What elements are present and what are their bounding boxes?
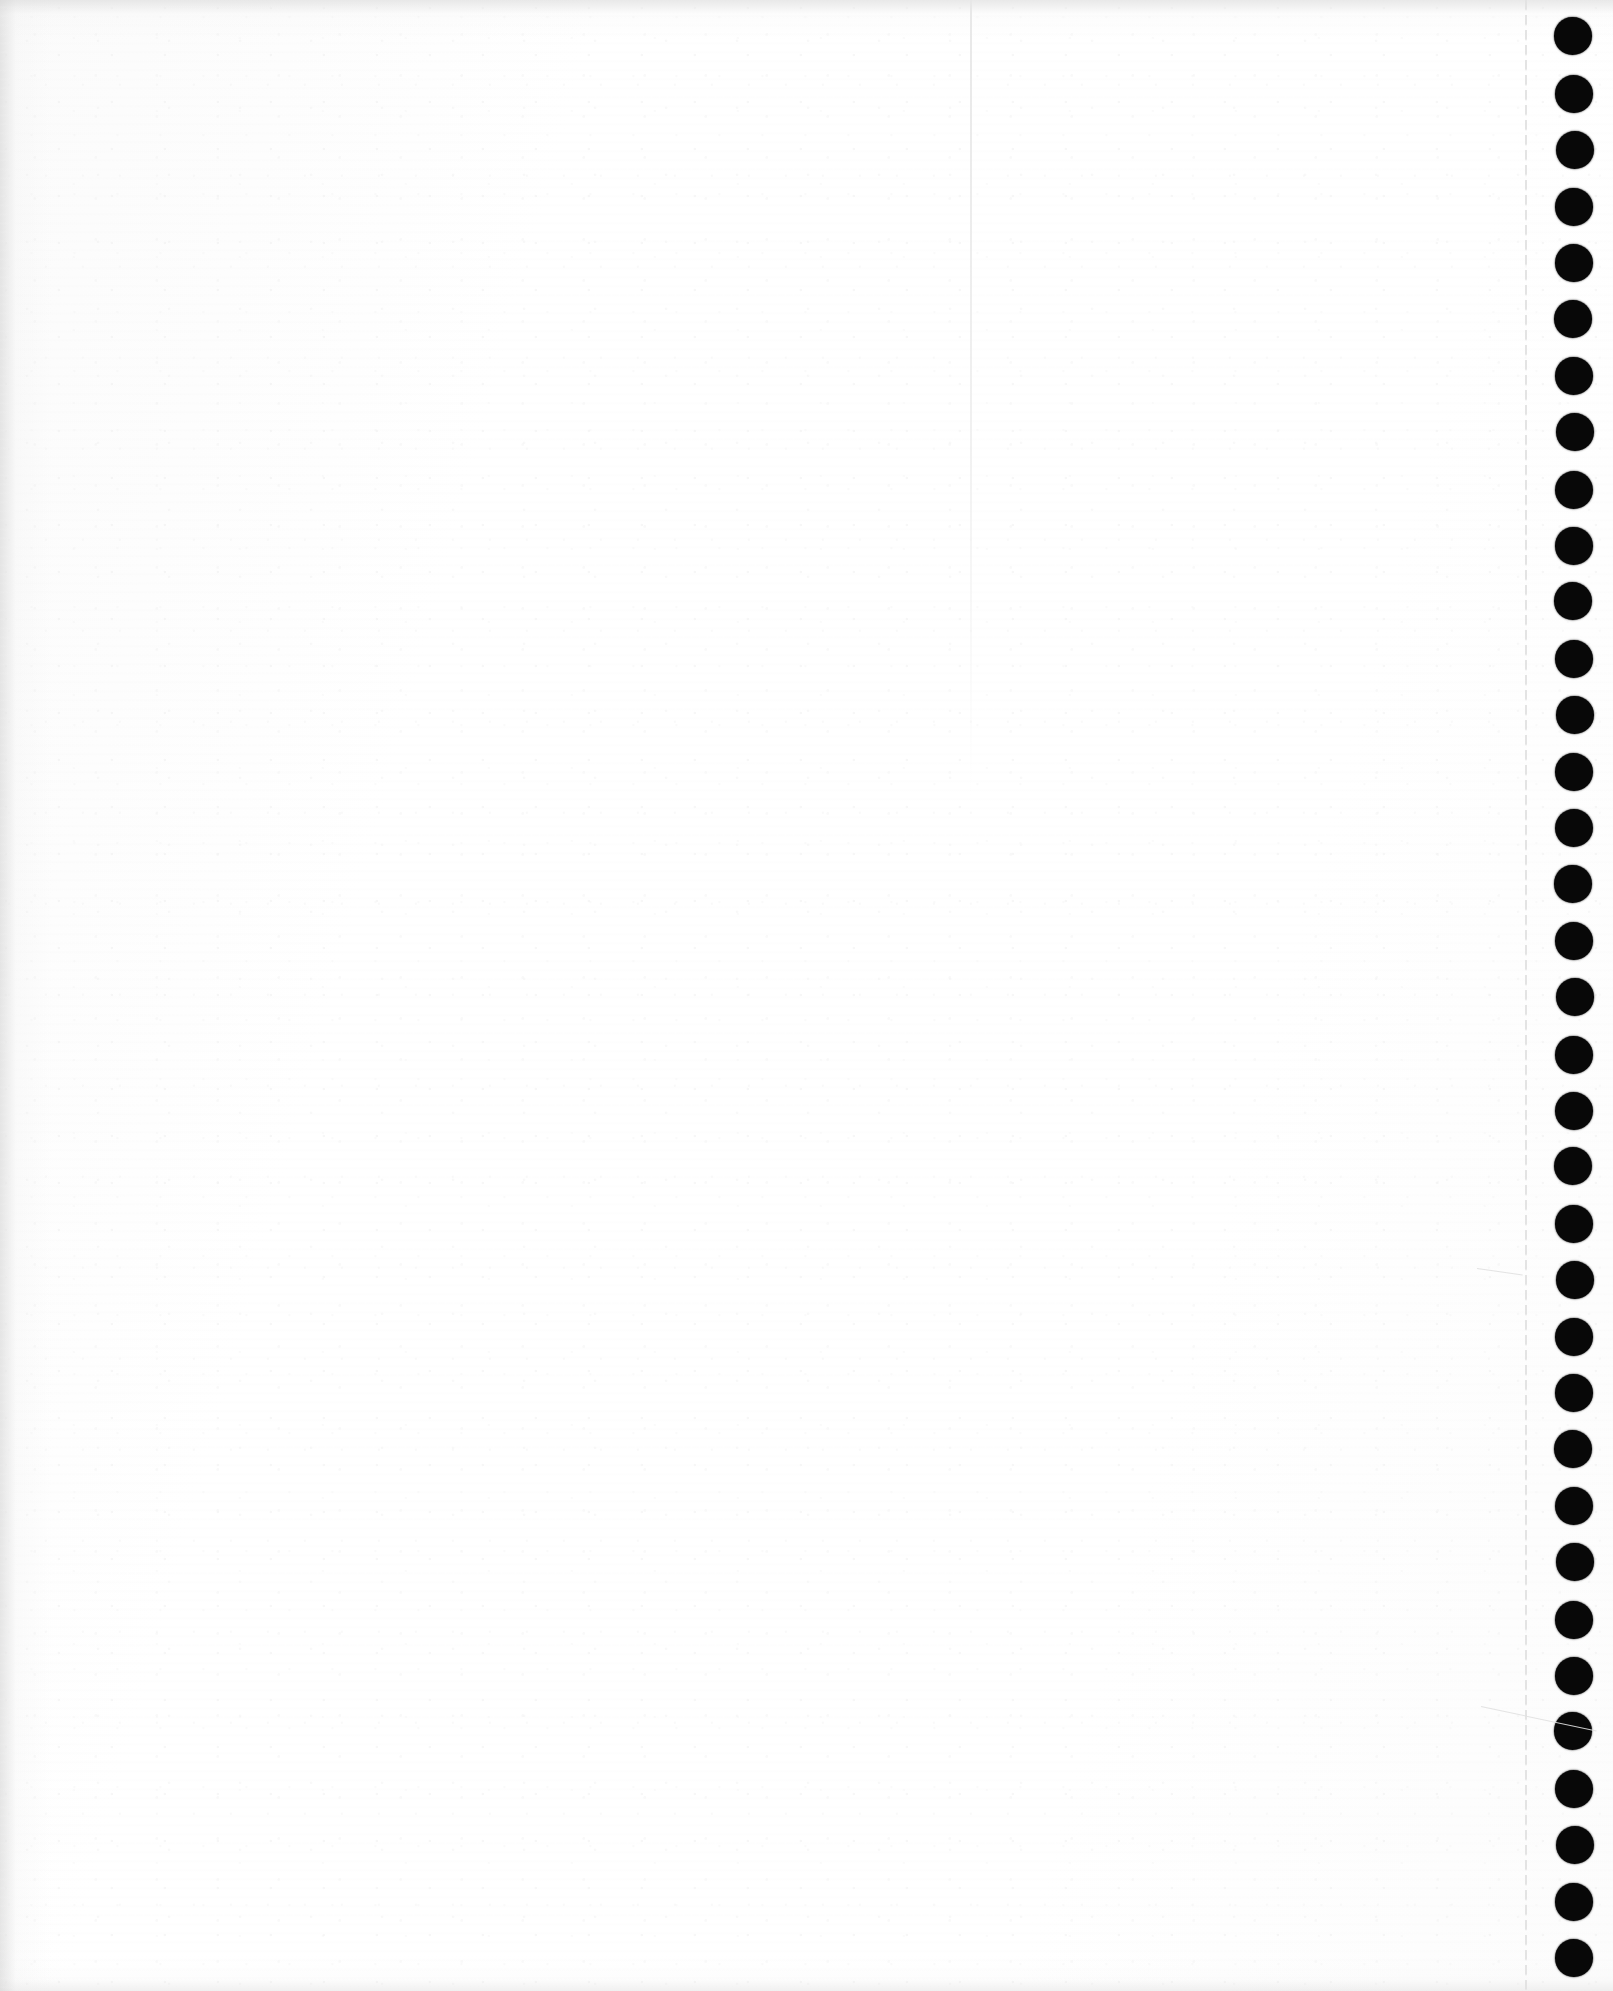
sprocket-hole xyxy=(1555,244,1593,282)
sprocket-hole xyxy=(1555,188,1593,226)
sprocket-hole xyxy=(1555,640,1593,678)
sprocket-hole xyxy=(1554,17,1592,55)
sprocket-hole xyxy=(1556,978,1594,1016)
sprocket-hole-strip xyxy=(1525,0,1613,1991)
sprocket-hole xyxy=(1554,582,1592,620)
sprocket-hole xyxy=(1554,1430,1592,1468)
sprocket-hole xyxy=(1555,1939,1593,1977)
sprocket-hole xyxy=(1555,1318,1593,1356)
sprocket-hole xyxy=(1555,1601,1593,1639)
sprocket-hole xyxy=(1556,696,1594,734)
page-body-blank-area xyxy=(0,0,1525,1991)
scanned-page xyxy=(0,0,1613,1991)
sprocket-hole xyxy=(1555,1205,1593,1243)
sprocket-hole xyxy=(1555,471,1593,509)
sprocket-hole xyxy=(1555,527,1593,565)
sprocket-hole xyxy=(1555,357,1593,395)
sprocket-hole xyxy=(1555,1374,1593,1412)
sprocket-hole xyxy=(1554,1712,1592,1750)
sprocket-hole xyxy=(1555,1883,1593,1921)
sprocket-hole xyxy=(1555,1092,1593,1130)
sprocket-hole xyxy=(1556,131,1594,169)
sprocket-hole xyxy=(1555,809,1593,847)
sprocket-hole xyxy=(1555,1657,1593,1695)
sprocket-hole xyxy=(1555,1036,1593,1074)
sprocket-hole xyxy=(1555,1487,1593,1525)
sprocket-hole xyxy=(1555,922,1593,960)
sprocket-hole xyxy=(1554,865,1592,903)
sprocket-hole xyxy=(1554,300,1592,338)
sprocket-hole xyxy=(1555,75,1593,113)
sprocket-hole xyxy=(1556,1261,1594,1299)
sprocket-hole xyxy=(1556,413,1594,451)
sprocket-hole xyxy=(1555,753,1593,791)
sprocket-hole xyxy=(1555,1770,1593,1808)
sprocket-hole xyxy=(1556,1826,1594,1864)
sprocket-hole xyxy=(1556,1543,1594,1581)
sprocket-hole xyxy=(1554,1147,1592,1185)
